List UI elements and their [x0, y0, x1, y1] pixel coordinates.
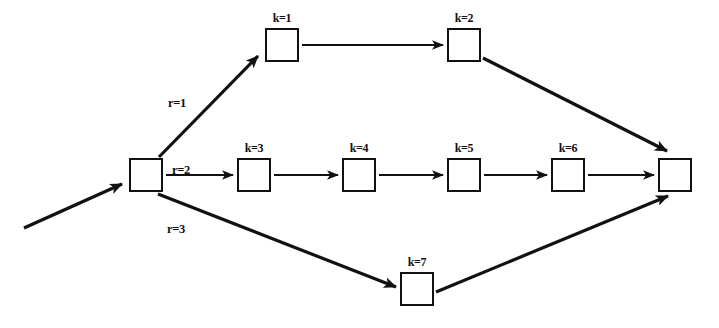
node-sink[interactable]: [658, 158, 692, 192]
edge-k2-to-sink: [483, 58, 667, 151]
node-label-k3: k=3: [237, 141, 271, 156]
node-k4[interactable]: [342, 158, 376, 192]
node-k3[interactable]: [237, 158, 271, 192]
node-k7[interactable]: [400, 272, 434, 306]
edge-label-r2: r=2: [172, 163, 190, 178]
edge-entry-to-source: [24, 184, 122, 228]
node-label-k5: k=5: [447, 141, 481, 156]
edge-source-to-k7: [158, 194, 396, 287]
node-label-k1: k=1: [265, 11, 299, 26]
node-k1[interactable]: [265, 28, 299, 62]
node-source[interactable]: [129, 158, 163, 192]
node-k5[interactable]: [447, 158, 481, 192]
routing-diagram: k=1 k=2 k=3 k=4 k=5 k=6 k=7 r=1 r=2 r=3: [0, 0, 719, 328]
node-label-k2: k=2: [447, 11, 481, 26]
edge-k7-to-sink: [436, 196, 668, 292]
node-label-k6: k=6: [551, 141, 585, 156]
edge-label-r1: r=1: [168, 96, 186, 111]
edge-label-r3: r=3: [167, 222, 185, 237]
node-k6[interactable]: [551, 158, 585, 192]
node-label-k4: k=4: [342, 141, 376, 156]
node-k2[interactable]: [447, 28, 481, 62]
node-label-k7: k=7: [400, 255, 434, 270]
